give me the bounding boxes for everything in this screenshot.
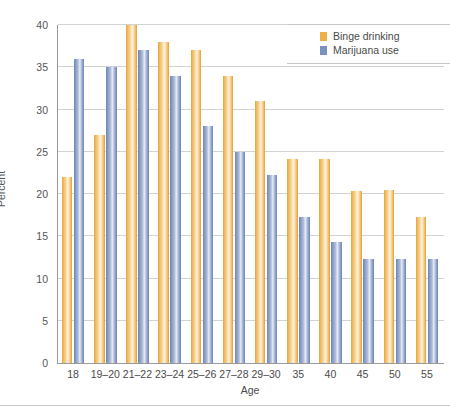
- legend-label-marijuana-use: Marijuana use: [333, 45, 399, 56]
- bar: [287, 159, 298, 363]
- y-axis-tick-label: 35: [36, 61, 48, 73]
- bar: [62, 177, 73, 363]
- bar: [138, 50, 149, 363]
- bar: [267, 175, 278, 363]
- y-axis-tick-labels: 0510152025303540: [0, 0, 57, 364]
- bar: [106, 67, 117, 363]
- legend-label-binge-drinking: Binge drinking: [333, 31, 400, 42]
- legend-item-binge-drinking: Binge drinking: [320, 31, 400, 42]
- y-axis-tick-label: 40: [36, 19, 48, 31]
- bottom-divider: [0, 405, 450, 406]
- bar: [428, 259, 439, 363]
- x-axis-tick-label: 29–30: [251, 368, 280, 380]
- bar: [235, 152, 246, 363]
- x-axis-tick-label: 35: [292, 368, 304, 380]
- y-axis-tick-label: 10: [36, 273, 48, 285]
- y-axis-tick-label: 15: [36, 230, 48, 242]
- legend-swatch-binge-drinking: [320, 32, 327, 41]
- bar: [331, 242, 342, 363]
- x-axis-tick-label: 55: [421, 368, 433, 380]
- bar: [299, 217, 310, 363]
- bar: [158, 42, 169, 363]
- bar: [126, 25, 137, 363]
- x-axis-tick-label: 18: [67, 368, 79, 380]
- y-axis-tick-label: 25: [36, 146, 48, 158]
- bar: [191, 50, 202, 363]
- y-axis-tick-label: 30: [36, 104, 48, 116]
- bar: [94, 135, 105, 363]
- bar: [255, 101, 266, 363]
- x-axis-tick-label: 27–28: [219, 368, 248, 380]
- bar: [416, 217, 427, 363]
- x-axis-tick-label: 21–22: [123, 368, 152, 380]
- legend-item-marijuana-use: Marijuana use: [320, 45, 399, 56]
- bar-chart-figure: 0510152025303540 Percent 1819–2021–2223–…: [0, 0, 450, 416]
- bar: [384, 190, 395, 363]
- x-axis-tick-label: 19–20: [91, 368, 120, 380]
- chart-legend: Binge drinking Marijuana use: [287, 24, 450, 64]
- bar: [363, 259, 374, 363]
- y-axis-tick-label: 0: [42, 357, 48, 369]
- x-axis-tick-label: 45: [357, 368, 369, 380]
- y-axis-title: Percent: [0, 171, 7, 207]
- y-axis-tick-label: 5: [42, 315, 48, 327]
- bar: [396, 259, 407, 363]
- bar: [203, 126, 214, 363]
- bar: [74, 59, 85, 363]
- x-axis-tick-labels: 1819–2021–2223–2425–2627–2829–3035404550…: [57, 368, 443, 384]
- x-axis-tick-label: 23–24: [155, 368, 184, 380]
- y-axis-tick-label: 20: [36, 188, 48, 200]
- bar: [319, 159, 330, 363]
- x-axis-tick-label: 40: [325, 368, 337, 380]
- bar: [223, 76, 234, 363]
- legend-swatch-marijuana-use: [320, 46, 327, 55]
- x-axis-tick-label: 25–26: [187, 368, 216, 380]
- x-axis-tick-label: 50: [389, 368, 401, 380]
- x-axis-title: Age: [57, 384, 443, 396]
- bar: [170, 76, 181, 363]
- bars-layer: [57, 25, 443, 363]
- bar: [351, 191, 362, 363]
